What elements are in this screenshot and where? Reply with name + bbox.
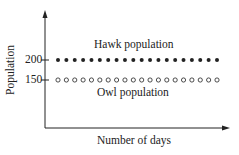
data-point — [173, 58, 177, 62]
hawk-annotation: Hawk population — [94, 38, 174, 50]
data-point — [106, 78, 110, 82]
data-point — [131, 78, 135, 82]
data-point — [81, 78, 85, 82]
data-point — [123, 78, 127, 82]
data-point — [198, 58, 202, 62]
data-point — [156, 78, 160, 82]
data-point — [165, 58, 169, 62]
data-point — [64, 58, 68, 62]
owl-series — [56, 78, 219, 82]
data-point — [182, 58, 186, 62]
data-point — [207, 58, 211, 62]
data-point — [148, 78, 152, 82]
tick-label-200: 200 — [25, 53, 42, 65]
data-point — [198, 78, 202, 82]
data-point — [148, 58, 152, 62]
data-point — [181, 78, 185, 82]
x-axis-label: Number of days — [97, 134, 171, 146]
data-point — [73, 78, 77, 82]
data-point — [215, 78, 219, 82]
data-point — [73, 58, 77, 62]
y-axis-arrow-icon — [43, 10, 48, 18]
data-point — [173, 78, 177, 82]
axes — [41, 10, 230, 131]
data-point — [190, 78, 194, 82]
data-point — [89, 58, 93, 62]
data-point — [131, 58, 135, 62]
data-point — [123, 58, 127, 62]
data-point — [106, 58, 110, 62]
data-point — [81, 58, 85, 62]
data-point — [140, 58, 144, 62]
tick-label-150: 150 — [25, 73, 42, 85]
data-point — [115, 58, 119, 62]
data-point — [140, 78, 144, 82]
data-point — [190, 58, 194, 62]
hawk-series — [56, 58, 219, 62]
data-point — [207, 78, 211, 82]
owl-annotation: Owl population — [97, 86, 169, 98]
data-point — [64, 78, 68, 82]
data-point — [165, 78, 169, 82]
y-axis-label: Population — [4, 40, 16, 100]
data-point — [56, 58, 60, 62]
data-point — [56, 78, 60, 82]
data-point — [98, 78, 102, 82]
data-point — [114, 78, 118, 82]
data-point — [89, 78, 93, 82]
data-point — [156, 58, 160, 62]
x-axis-arrow-icon — [222, 126, 230, 131]
data-point — [215, 58, 219, 62]
data-point — [98, 58, 102, 62]
